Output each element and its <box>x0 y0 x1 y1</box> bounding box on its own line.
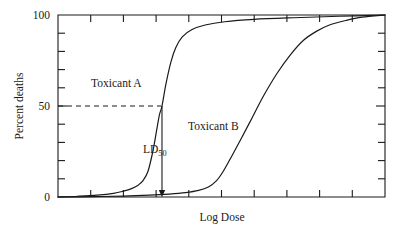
chart-svg: 100 50 0 Percent deaths Log Dose Toxican… <box>0 0 408 232</box>
ld50-subscript-text: 50 <box>158 149 166 158</box>
ld50-arrow-head <box>159 190 165 197</box>
y-axis-title: Percent deaths <box>13 72 25 139</box>
y-axis-ticks-right <box>376 33 385 179</box>
y-tick-label-50: 50 <box>39 100 51 112</box>
x-axis-ticks-top <box>91 15 353 22</box>
chart-figure: 100 50 0 Percent deaths Log Dose Toxican… <box>0 0 408 232</box>
y-tick-label-0: 0 <box>44 191 50 203</box>
annotation-ld50: LD50 <box>143 143 167 158</box>
x-axis-title: Log Dose <box>199 211 244 224</box>
y-tick-label-100: 100 <box>33 9 51 21</box>
ld50-base-text: LD <box>143 143 158 155</box>
annotation-toxicant-b: Toxicant B <box>188 120 239 132</box>
annotation-toxicant-a: Toxicant A <box>91 77 142 89</box>
